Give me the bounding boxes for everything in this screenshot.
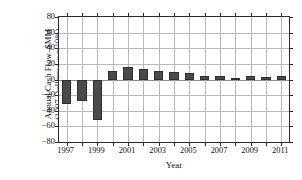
bar — [200, 76, 210, 80]
x-axis-tick-label: 2003 — [149, 146, 166, 155]
y-axis-tick-mark — [289, 33, 293, 34]
y-axis-tick-label: −60 — [34, 121, 55, 130]
x-axis-tick-mark — [251, 13, 252, 17]
gridline-vertical — [220, 17, 221, 142]
gridline-vertical — [128, 17, 129, 142]
x-axis-tick-mark — [174, 13, 175, 17]
x-axis-tick-label: 2001 — [119, 146, 136, 155]
bar — [215, 76, 225, 80]
gridline-vertical — [266, 17, 267, 142]
bar — [139, 69, 149, 80]
y-axis-tick-mark — [289, 126, 293, 127]
y-axis-tick-mark — [55, 126, 59, 127]
y-axis-tick-mark — [289, 48, 293, 49]
gridline-vertical — [189, 17, 190, 142]
y-axis-tick-label: 60 — [34, 27, 55, 36]
x-axis-tick-mark — [113, 13, 114, 17]
x-axis-tick-mark — [220, 13, 221, 17]
x-axis-tick-label: 1999 — [88, 146, 105, 155]
gridline-vertical — [281, 17, 282, 142]
y-axis-tick-mark — [289, 111, 293, 112]
y-axis-tick-mark — [55, 80, 59, 81]
chart-figure: Annual Cash Flow–$MM (1997 Dollars; ieff… — [0, 0, 302, 180]
x-axis-tick-label: 2009 — [241, 146, 258, 155]
x-axis-label: Year — [58, 160, 290, 170]
gridline-vertical — [174, 17, 175, 142]
y-axis-tick-label: −20 — [34, 90, 55, 99]
bar — [123, 67, 133, 80]
y-axis-tick-label: 20 — [34, 58, 55, 67]
x-axis-tick-mark — [235, 13, 236, 17]
x-axis-tick-mark — [128, 13, 129, 17]
x-axis-tick-mark — [281, 13, 282, 17]
x-axis-tick-mark — [266, 13, 267, 17]
gridline-vertical — [143, 17, 144, 142]
y-axis-tick-mark — [55, 48, 59, 49]
bar — [261, 77, 271, 79]
y-axis-tick-labels: 806040200−20−40−60−80 — [34, 16, 55, 143]
y-axis-tick-mark — [289, 95, 293, 96]
x-axis-tick-mark — [82, 13, 83, 17]
x-axis-tick-mark — [143, 13, 144, 17]
x-axis-tick-label: 1997 — [57, 146, 74, 155]
bar — [108, 71, 118, 80]
gridline-vertical — [205, 17, 206, 142]
x-axis-tick-mark — [97, 13, 98, 17]
y-axis-tick-label: −80 — [34, 137, 55, 146]
y-axis-tick-mark — [289, 80, 293, 81]
plot-area — [58, 16, 290, 143]
x-axis-tick-mark — [205, 13, 206, 17]
y-axis-tick-label: 0 — [34, 74, 55, 83]
bar — [77, 80, 87, 102]
y-axis-tick-mark — [289, 64, 293, 65]
gridline-vertical — [159, 17, 160, 142]
bar — [154, 71, 164, 80]
y-axis-tick-mark — [55, 33, 59, 34]
x-axis-tick-labels: 19971999200120032005200720092011 — [58, 146, 290, 158]
x-axis-tick-mark — [159, 13, 160, 17]
bar — [62, 80, 72, 104]
x-axis-tick-label: 2007 — [211, 146, 228, 155]
y-axis-tick-mark — [55, 95, 59, 96]
bar — [185, 73, 195, 79]
x-axis-tick-mark — [189, 13, 190, 17]
bar — [169, 72, 179, 79]
y-axis-tick-mark — [55, 17, 59, 18]
y-axis-tick-mark — [289, 17, 293, 18]
y-axis-tick-label: 80 — [34, 12, 55, 21]
bar — [93, 80, 103, 121]
bar — [277, 76, 287, 79]
y-axis-tick-mark — [55, 142, 59, 143]
y-axis-tick-label: −40 — [34, 105, 55, 114]
x-axis-tick-label: 2005 — [180, 146, 197, 155]
y-axis-tick-mark — [55, 64, 59, 65]
bar — [246, 76, 256, 79]
bar — [231, 78, 241, 80]
y-axis-tick-mark — [55, 111, 59, 112]
gridline-vertical — [251, 17, 252, 142]
y-axis-tick-label: 40 — [34, 43, 55, 52]
x-axis-tick-mark — [67, 13, 68, 17]
gridline-vertical — [113, 17, 114, 142]
y-axis-tick-mark — [289, 142, 293, 143]
x-axis-tick-label: 2011 — [272, 146, 288, 155]
